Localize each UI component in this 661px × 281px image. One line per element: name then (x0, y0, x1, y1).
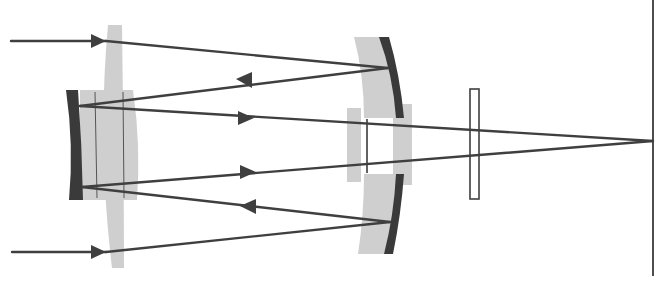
arrow-left-icon (240, 199, 256, 214)
arrow-right-icon (91, 34, 106, 48)
arrow-right-icon (240, 165, 256, 179)
ray-to-primary-bottom (106, 222, 390, 252)
ray-to-secondary-top (80, 68, 388, 106)
arrow-right-icon (91, 245, 106, 259)
filter-plate (470, 89, 479, 199)
optical-diagram (0, 0, 661, 281)
field-lens-left (347, 108, 361, 182)
ray-to-primary-top (106, 41, 388, 68)
ray-to-secondary-bottom (82, 187, 390, 222)
arrow-right-icon (238, 111, 254, 125)
